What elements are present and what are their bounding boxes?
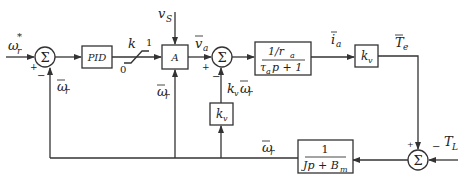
svg-text:r: r bbox=[17, 46, 22, 56]
svg-text:a: a bbox=[266, 67, 271, 76]
svg-text:r: r bbox=[165, 91, 170, 101]
svg-text:a: a bbox=[336, 39, 341, 49]
svg-text:r: r bbox=[248, 88, 253, 98]
svg-text:e: e bbox=[403, 42, 408, 52]
speed-error-summer: Σ + − bbox=[30, 47, 55, 81]
armature-current-label: i a bbox=[331, 32, 341, 49]
armature-voltage-label: v a bbox=[195, 36, 208, 53]
torque-summer: Σ + − bbox=[407, 140, 440, 170]
svg-text:PID: PID bbox=[87, 52, 107, 63]
svg-text:1: 1 bbox=[322, 143, 329, 156]
svg-text:0: 0 bbox=[120, 64, 126, 75]
mechanical-transfer-block: 1 Jp + B m bbox=[298, 140, 353, 174]
svg-text:+: + bbox=[407, 140, 414, 149]
dc-motor-speed-control-diagram: ω r * Σ + − PID k 1 0 v S A v a bbox=[0, 0, 465, 183]
electric-torque-label: T e bbox=[395, 35, 408, 52]
svg-text:v: v bbox=[158, 6, 166, 21]
svg-text:+: + bbox=[202, 62, 210, 72]
svg-text:L: L bbox=[451, 142, 458, 152]
omega-feedback-left-label: ω r bbox=[57, 79, 70, 96]
speed-reference-label: ω r * bbox=[8, 31, 22, 56]
omega-feedback-mid-label: ω r bbox=[157, 84, 170, 101]
svg-text:1: 1 bbox=[146, 37, 152, 48]
svg-text:k: k bbox=[128, 36, 136, 51]
saturation-limiter: k 1 0 bbox=[120, 36, 152, 75]
actuator-block: A bbox=[162, 45, 188, 69]
svg-text:a: a bbox=[290, 51, 295, 60]
svg-text:v: v bbox=[195, 36, 203, 51]
svg-text:v: v bbox=[234, 89, 239, 98]
svg-text:Σ: Σ bbox=[217, 50, 226, 65]
svg-text:A: A bbox=[170, 52, 178, 63]
svg-text:−: − bbox=[432, 141, 440, 152]
pid-block: PID bbox=[82, 46, 112, 68]
svg-text:−: − bbox=[212, 71, 220, 82]
armature-transfer-block: 1/r a τ a p + 1 bbox=[255, 42, 311, 76]
backemf-gain-block: k v bbox=[210, 103, 233, 125]
svg-text:Σ: Σ bbox=[413, 153, 422, 168]
svg-text:a: a bbox=[203, 43, 208, 53]
svg-text:i: i bbox=[331, 32, 335, 47]
svg-text:Σ: Σ bbox=[40, 50, 49, 65]
svg-text:m: m bbox=[340, 165, 348, 174]
svg-text:r: r bbox=[270, 147, 275, 157]
svg-text:Jp + B: Jp + B bbox=[301, 159, 339, 172]
omega-feedback-bottom-label: ω r bbox=[262, 140, 275, 157]
svg-text:v: v bbox=[368, 56, 373, 65]
svg-text:v: v bbox=[223, 114, 228, 123]
svg-text:*: * bbox=[17, 31, 22, 42]
back-emf-label: k v ω r bbox=[227, 81, 253, 98]
load-torque-label: T L bbox=[444, 134, 458, 152]
svg-text:S: S bbox=[166, 14, 172, 24]
svg-text:r: r bbox=[65, 86, 70, 96]
svg-text:1/r: 1/r bbox=[268, 45, 285, 58]
svg-text:p + 1: p + 1 bbox=[272, 61, 302, 74]
supply-voltage-label: v S bbox=[158, 6, 172, 24]
torque-gain-block: k v bbox=[355, 45, 378, 67]
minus-sign: − bbox=[37, 70, 45, 81]
